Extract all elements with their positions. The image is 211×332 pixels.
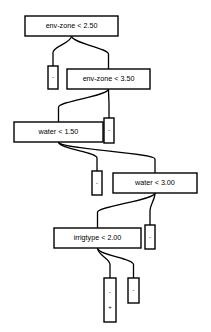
leaf-node-mark: -: [133, 287, 135, 293]
split-node-label: env-zone < 2.50: [46, 21, 98, 30]
tree-edge: [72, 36, 109, 69]
split-node[interactable]: water < 3.00: [113, 173, 197, 193]
leaf-node-mark: -: [52, 74, 54, 80]
split-node[interactable]: water < 1.50: [14, 122, 103, 142]
tree-edge: [59, 89, 109, 122]
tree-edge: [109, 89, 110, 118]
leaf-node[interactable]: -: [104, 118, 114, 143]
decision-tree-diagram: env-zone < 2.50env-zone < 3.50water < 1.…: [0, 0, 211, 332]
leaf-node-mark: -: [108, 127, 110, 133]
tree-edge: [59, 142, 156, 173]
leaf-node-mark: -: [109, 289, 111, 295]
split-node[interactable]: env-zone < 3.50: [67, 69, 150, 89]
tree-edge: [53, 36, 72, 66]
leaf-node[interactable]: -: [145, 225, 155, 249]
split-node-label: irrigtype < 2.00: [74, 233, 122, 242]
tree-edge: [59, 142, 98, 171]
node-layer: env-zone < 2.50env-zone < 3.50water < 1.…: [14, 16, 197, 322]
leaf-node[interactable]: -: [128, 278, 139, 303]
leaf-node[interactable]: -: [92, 171, 102, 195]
tree-edge: [98, 248, 134, 278]
leaf-node[interactable]: -: [48, 66, 58, 89]
leaf-node-box: [104, 278, 116, 322]
split-node[interactable]: env-zone < 2.50: [25, 16, 118, 36]
tree-edge: [150, 193, 155, 225]
tree-edge: [98, 193, 156, 228]
split-node-label: water < 3.00: [134, 178, 175, 187]
leaf-node-mark: +: [108, 304, 112, 310]
split-node-label: env-zone < 3.50: [83, 74, 135, 83]
leaf-node-mark: -: [149, 234, 151, 240]
leaf-node-mark: -: [96, 180, 98, 186]
split-node[interactable]: irrigtype < 2.00: [54, 228, 141, 248]
leaf-node[interactable]: -+: [104, 278, 116, 322]
split-node-label: water < 1.50: [38, 127, 79, 136]
